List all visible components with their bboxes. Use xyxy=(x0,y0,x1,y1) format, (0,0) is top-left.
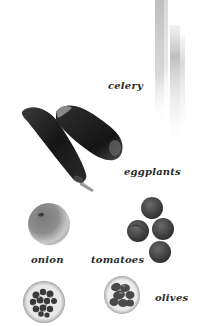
onion-image xyxy=(26,201,72,247)
olives-label: olives xyxy=(155,292,188,303)
tomatoes-label: tomatoes xyxy=(91,254,144,265)
eggplants-image xyxy=(18,100,130,195)
celery-label: celery xyxy=(108,80,143,91)
celery-image xyxy=(150,0,195,150)
olives-bowl-image xyxy=(103,275,141,315)
capers-bowl-image xyxy=(22,280,66,324)
eggplants-label: eggplants xyxy=(124,166,181,177)
onion-label: onion xyxy=(31,254,64,265)
